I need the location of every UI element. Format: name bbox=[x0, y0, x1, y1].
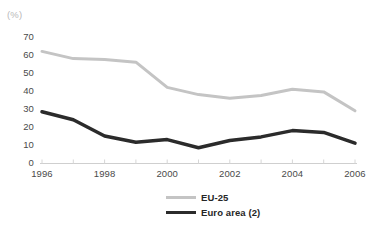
legend-label-euro-area: Euro area (2) bbox=[201, 207, 260, 218]
line-swatch-euro-area-icon bbox=[166, 211, 196, 214]
chart-legend: EU-25 Euro area (2) bbox=[0, 190, 373, 220]
y-axis-tick-label: 0 bbox=[8, 157, 34, 168]
series-line-eu-25 bbox=[42, 51, 355, 110]
x-axis-tick-label: 2006 bbox=[335, 168, 373, 179]
y-axis-tick-label: 30 bbox=[8, 103, 34, 114]
legend-item-euro-area[interactable]: Euro area (2) bbox=[0, 205, 373, 220]
plot-area bbox=[0, 0, 373, 190]
line-swatch-eu25-icon bbox=[166, 196, 196, 199]
chart-figure: (%) 010203040506070 19961998200020022004… bbox=[0, 0, 373, 227]
y-axis-tick-label: 70 bbox=[8, 31, 34, 42]
series-lines bbox=[42, 51, 355, 147]
y-axis-tick-label: 60 bbox=[8, 49, 34, 60]
legend-label-eu25: EU-25 bbox=[201, 192, 228, 203]
x-axis-tick-label: 1998 bbox=[85, 168, 125, 179]
y-axis-tick-label: 50 bbox=[8, 67, 34, 78]
x-axis-tick-label: 2000 bbox=[147, 168, 187, 179]
x-axis-tick-label: 2004 bbox=[272, 168, 312, 179]
y-axis-tick-label: 40 bbox=[8, 85, 34, 96]
series-line-euro-area-2 bbox=[42, 112, 355, 148]
x-axis-tickmarks bbox=[42, 160, 355, 164]
y-axis-tick-label: 20 bbox=[8, 121, 34, 132]
legend-item-eu25[interactable]: EU-25 bbox=[0, 190, 373, 205]
y-axis-tick-label: 10 bbox=[8, 139, 34, 150]
x-axis-tick-label: 2002 bbox=[210, 168, 250, 179]
x-axis-tick-label: 1996 bbox=[22, 168, 62, 179]
